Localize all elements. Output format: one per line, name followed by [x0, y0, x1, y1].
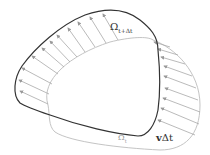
diagram-svg: [0, 0, 210, 155]
displacement-label: vΔt: [156, 132, 173, 143]
omega-t-label: Ωt: [118, 133, 127, 144]
omega-t-plus-dt-boundary: [15, 10, 160, 136]
diagram-canvas: Ωt+Δt Ωt vΔt: [0, 0, 210, 155]
omega-t-plus-dt-label: Ωt+Δt: [110, 21, 132, 34]
